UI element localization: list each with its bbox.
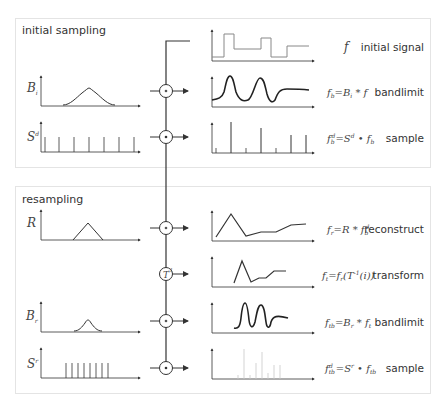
initial-sampling-title: initial sampling bbox=[22, 24, 106, 37]
plot-sampled-signal bbox=[212, 122, 314, 153]
label-R: R bbox=[26, 216, 36, 230]
svg-text:-1: -1 bbox=[168, 267, 173, 273]
operator-transform: T -1 bbox=[160, 267, 189, 281]
formula-sample: fbd=Sd • fb bbox=[326, 132, 374, 145]
plot-reconstructed-signal bbox=[212, 211, 314, 241]
formula-initial-signal: f bbox=[343, 40, 351, 54]
operator-convolve-reconstruct bbox=[150, 222, 188, 235]
plot-initial-signal bbox=[212, 30, 314, 61]
resampling-title: resampling bbox=[22, 193, 83, 206]
plot-bandlimited-signal bbox=[212, 76, 314, 107]
plot-resampled-signal bbox=[212, 349, 314, 379]
step-label-resample: sample bbox=[386, 362, 424, 374]
plot-sampling-comb-d bbox=[41, 122, 140, 152]
resampling-pipeline-diagram: initial sampling resampling T -1 bbox=[0, 0, 446, 409]
formula-resample: ftbd=Sr • ftb bbox=[324, 362, 376, 375]
step-label-transform: transform bbox=[373, 269, 424, 281]
plot-bandlimit-kernel-i bbox=[41, 76, 140, 106]
operator-convolve-bandlimit bbox=[150, 85, 188, 98]
step-label-reconstruct: reconstruct bbox=[364, 223, 424, 235]
plot-bandlimit-kernel-r bbox=[41, 302, 140, 332]
operator-multiply-sample bbox=[150, 131, 188, 144]
step-label-bandlimit: bandlimit bbox=[374, 86, 424, 98]
formula-reconstruct: fr=R * fbd bbox=[326, 223, 369, 236]
step-label-sample: sample bbox=[386, 132, 424, 144]
step-label-initial-signal: initial signal bbox=[361, 41, 424, 53]
plot-reconstruction-kernel bbox=[41, 210, 140, 240]
step-label-bandlimit-r: bandlimit bbox=[374, 316, 424, 328]
plot-bandlimited-transformed bbox=[212, 303, 314, 333]
plot-transformed-signal bbox=[212, 257, 314, 287]
formula-bandlimit-r: ftb=Br * ft bbox=[324, 317, 372, 329]
label-Bi: Bi bbox=[26, 81, 38, 96]
label-Sd: Sd bbox=[27, 130, 39, 144]
plot-sampling-comb-r bbox=[41, 348, 140, 378]
formula-bandlimit: fb=Bi * f bbox=[326, 87, 370, 99]
operator-multiply-resample bbox=[150, 362, 188, 375]
operator-convolve-bandlimit-r bbox=[150, 315, 188, 328]
formula-transform: ft=fr(T-1(i)) bbox=[321, 269, 375, 282]
label-Br: Br bbox=[25, 309, 39, 324]
label-Sr: Sr bbox=[27, 357, 39, 371]
